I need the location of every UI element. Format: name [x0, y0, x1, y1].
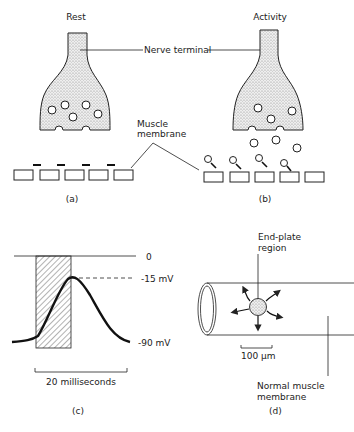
svg-text:Muscle: Muscle [137, 119, 169, 129]
label-rest: -90 mV [138, 338, 171, 348]
caption-c: (c) [72, 406, 84, 416]
endplate-label-1: End-plate [258, 232, 302, 242]
nerve-terminal-label: Nerve terminal [80, 45, 262, 55]
svg-text:membrane: membrane [137, 129, 187, 139]
membrane-blocks-b [204, 172, 324, 182]
time-scale-bar [35, 368, 127, 372]
length-scale-bar [241, 345, 272, 348]
label-zero: 0 [146, 252, 152, 262]
endplate-region [250, 299, 267, 316]
caption-d: (d) [269, 406, 282, 416]
figure: Rest (a) Nerve terminal M [0, 0, 354, 432]
time-scale-label: 20 milliseconds [46, 377, 116, 387]
panel-d: End-plate region 100 μm Normal muscle me… [198, 232, 354, 416]
length-scale-label: 100 μm [241, 351, 276, 361]
caption-b: (b) [259, 194, 272, 204]
normal-membrane-label-1: Normal muscle [257, 381, 325, 391]
panel-c: 0 -15 mV -90 mV 20 milliseconds (c) [12, 252, 174, 416]
caption-a: (a) [66, 194, 79, 204]
endplate-label-2: region [258, 243, 286, 253]
membrane-blocks-a [14, 170, 133, 180]
label-peak: -15 mV [141, 274, 174, 284]
svg-text:Nerve terminal: Nerve terminal [144, 45, 211, 55]
rest-title: Rest [66, 12, 86, 22]
muscle-membrane-label: Muscle membrane [131, 119, 199, 170]
panel-a: Rest (a) [14, 12, 133, 204]
normal-membrane-label-2: membrane [257, 392, 307, 402]
fiber-end-inner [201, 286, 214, 332]
receptor-openings-b [211, 162, 291, 171]
activity-title: Activity [253, 12, 287, 22]
panel-b: Activity (b) [204, 12, 324, 204]
